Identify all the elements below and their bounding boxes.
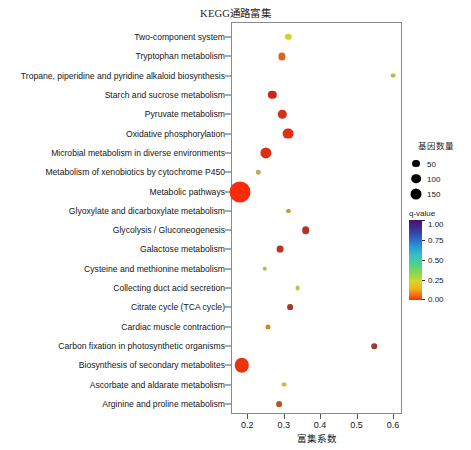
x-axis-tick bbox=[393, 414, 394, 419]
y-axis-label: Collecting duct acid secretion bbox=[113, 284, 225, 293]
qvalue-legend: q-value 1.000.750.500.250.00 bbox=[409, 209, 471, 300]
y-axis-label: Glycolysis / Gluconeogenesis bbox=[113, 226, 225, 235]
y-axis-label: Citrate cycle (TCA cycle) bbox=[131, 303, 225, 312]
qvalue-legend-title: q-value bbox=[409, 209, 471, 218]
y-axis-label: Oxidative phosphorylation bbox=[126, 129, 225, 138]
size-legend-row: 150 bbox=[409, 186, 471, 201]
x-axis-tick-label: 0.5 bbox=[350, 420, 363, 430]
x-axis-tick bbox=[357, 414, 358, 419]
size-legend-label: 150 bbox=[427, 189, 440, 198]
size-legend-row: 100 bbox=[409, 171, 471, 186]
colorbar-tick bbox=[422, 260, 425, 261]
x-axis-tick-label: 0.6 bbox=[387, 420, 400, 430]
size-legend-title: 基因数量 bbox=[418, 139, 471, 151]
y-axis-label: Galactose metabolism bbox=[140, 245, 225, 254]
y-axis-label: Metabolism of xenobiotics by cytochrome … bbox=[45, 168, 225, 177]
y-axis-label: Ascorbate and aldarate metabolism bbox=[90, 380, 225, 389]
kegg-enrichment-bubble-chart: KEGG通路富集 Two-component systemTryptophan … bbox=[0, 0, 471, 450]
y-axis-label: Cardiac muscle contraction bbox=[121, 322, 225, 331]
size-legend-dot bbox=[411, 188, 422, 199]
size-legend: 基因数量 50100150 bbox=[409, 139, 471, 201]
colorbar-tick-label: 0.00 bbox=[428, 295, 444, 304]
colorbar-tick-label: 1.00 bbox=[428, 220, 444, 229]
colorbar-tick-label: 0.50 bbox=[428, 256, 444, 265]
size-legend-label: 50 bbox=[427, 159, 436, 168]
x-axis-tick-label: 0.3 bbox=[277, 420, 290, 430]
y-axis-label: Microbial metabolism in diverse environm… bbox=[51, 149, 225, 158]
y-axis-label: Starch and sucrose metabolism bbox=[105, 91, 225, 100]
y-axis-label: Tropane, piperidine and pyridine alkaloi… bbox=[21, 71, 225, 80]
y-axis-labels: Two-component systemTryptophan metabolis… bbox=[0, 0, 225, 450]
size-legend-rows: 50100150 bbox=[409, 156, 471, 201]
y-axis-label: Two-component system bbox=[134, 33, 225, 42]
plot-frame bbox=[231, 22, 402, 414]
colorbar-wrap: 1.000.750.500.250.00 bbox=[409, 220, 471, 300]
y-axis-label: Metabolic pathways bbox=[150, 187, 225, 196]
size-legend-row: 50 bbox=[409, 156, 471, 171]
colorbar-gradient bbox=[409, 220, 422, 300]
x-axis-tick-label: 0.2 bbox=[241, 420, 254, 430]
y-axis-label: Carbon fixation in photosynthetic organi… bbox=[58, 342, 225, 351]
colorbar-tick-label: 0.75 bbox=[428, 236, 444, 245]
x-axis-tick bbox=[247, 414, 248, 419]
x-axis-tick bbox=[320, 414, 321, 419]
y-axis-label: Pyruvate metabolism bbox=[145, 110, 225, 119]
x-axis-title: 富集系数 bbox=[231, 431, 402, 445]
size-legend-dot bbox=[411, 174, 421, 184]
y-axis-label: Arginine and proline metabolism bbox=[102, 400, 225, 409]
colorbar-tick bbox=[422, 240, 425, 241]
y-axis-label: Cysteine and methionine metabolism bbox=[84, 264, 225, 273]
colorbar-tick bbox=[422, 280, 425, 281]
size-legend-dot bbox=[412, 160, 420, 168]
x-axis-tick-label: 0.4 bbox=[314, 420, 327, 430]
x-axis-tick bbox=[284, 414, 285, 419]
y-axis-label: Glyoxylate and dicarboxylate metabolism bbox=[69, 207, 225, 216]
y-axis-label: Biosynthesis of secondary metabolites bbox=[79, 361, 225, 370]
y-axis-label: Tryptophan metabolism bbox=[136, 52, 225, 61]
size-legend-label: 100 bbox=[427, 174, 440, 183]
colorbar-tick bbox=[422, 220, 425, 221]
colorbar-tick-label: 0.25 bbox=[428, 276, 444, 285]
colorbar-tick bbox=[422, 299, 425, 300]
